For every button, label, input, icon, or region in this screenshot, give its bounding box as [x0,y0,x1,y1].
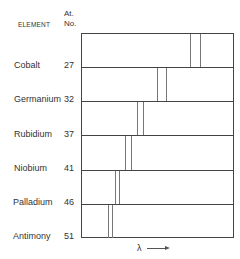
atomic-number: 46 [64,197,74,207]
spectral-line [157,68,158,101]
spectrum-row-rubidium [82,102,233,136]
spectral-line [125,136,126,170]
spectral-line [200,34,201,67]
spectral-line [112,205,113,238]
at-no-line1: At. [64,9,76,19]
spectral-line [143,102,144,135]
spectrum-row-palladium [82,171,233,205]
spectral-line [108,205,109,238]
spectral-line [119,171,120,204]
element-label: Cobalt [14,60,40,70]
element-column-header: ELEMENT [18,21,50,28]
spectral-line [190,34,191,67]
spectral-line [115,171,116,204]
element-label: Palladium [13,197,53,207]
right-arrow-icon [147,248,167,249]
wavelength-label: λ [137,243,142,253]
atomic-number: 41 [64,163,74,173]
element-label: Germanium [14,94,61,104]
spectrum-row-germanium [82,68,233,102]
element-label: Niobium [14,163,47,173]
element-label: Antimony [13,231,51,241]
atomic-number-column-header: At. No. [64,9,76,29]
at-no-line2: No. [64,19,76,29]
atomic-number: 37 [64,129,74,139]
spectral-line [166,68,167,101]
spectrum-row-cobalt [82,34,233,68]
atomic-number: 27 [64,60,74,70]
element-label: Rubidium [14,129,52,139]
spectral-line [137,102,138,135]
spectral-line [131,136,132,170]
atomic-number: 51 [64,231,74,241]
spectra-box [81,33,234,238]
atomic-number: 32 [64,94,74,104]
spectrum-row-antimony [82,205,233,238]
spectrum-row-niobium [82,136,233,171]
